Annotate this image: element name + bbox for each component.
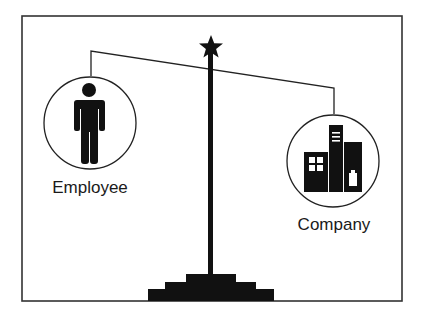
employee-label: Employee xyxy=(52,178,128,198)
scale-pole xyxy=(208,52,213,276)
company-label: Company xyxy=(298,215,371,235)
balance-diagram xyxy=(0,0,423,318)
scale-base xyxy=(148,274,274,301)
